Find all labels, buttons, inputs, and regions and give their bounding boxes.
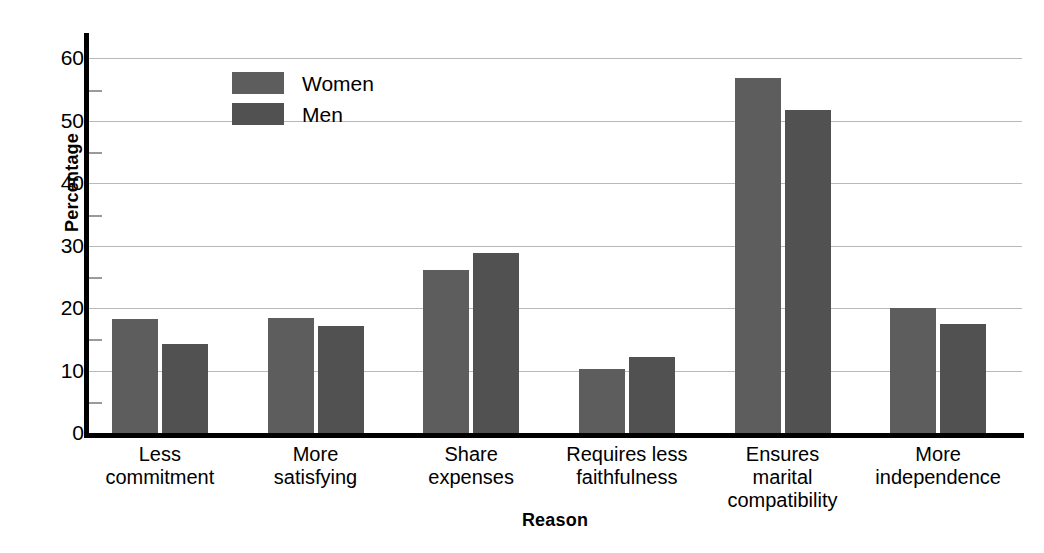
- legend-label-women: Women: [302, 73, 374, 94]
- y-tick-label-30: 30: [14, 235, 84, 256]
- bar-men-2: [473, 253, 519, 433]
- x-category-line: Ensures: [705, 443, 861, 466]
- x-category-label-4: Ensuresmaritalcompatibility: [705, 443, 861, 511]
- bar-men-4: [785, 110, 831, 433]
- x-axis-title: Reason: [88, 510, 1022, 531]
- x-category-line: More: [860, 443, 1016, 466]
- bar-men-3: [629, 357, 675, 433]
- legend-item-men: Men: [232, 100, 374, 128]
- bar-women-3: [579, 369, 625, 433]
- y-tick-label-60: 60: [14, 47, 84, 68]
- legend-label-men: Men: [302, 104, 343, 125]
- x-axis-spine: [84, 433, 1024, 438]
- bar-women-5: [890, 308, 936, 433]
- y-tick-label-40: 40: [14, 172, 84, 193]
- x-category-line: commitment: [82, 466, 238, 489]
- bar-women-1: [268, 318, 314, 433]
- legend-item-women: Women: [232, 69, 374, 97]
- x-category-line: marital: [705, 466, 861, 489]
- bar-women-2: [423, 270, 469, 433]
- legend-swatch-women: [232, 72, 284, 94]
- x-category-label-1: Moresatisfying: [238, 443, 394, 489]
- x-category-label-0: Lesscommitment: [82, 443, 238, 489]
- bar-men-5: [940, 324, 986, 433]
- bar-women-4: [735, 78, 781, 433]
- bar-women-0: [112, 319, 158, 433]
- x-category-line: Requires less: [549, 443, 705, 466]
- chart-legend: WomenMen: [232, 69, 374, 131]
- x-category-line: faithfulness: [549, 466, 705, 489]
- bar-chart: Percentage 0102030405060 WomenMen Lessco…: [0, 0, 1044, 553]
- x-category-line: Share: [393, 443, 549, 466]
- legend-swatch-men: [232, 103, 284, 125]
- x-category-line: satisfying: [238, 466, 394, 489]
- x-category-line: expenses: [393, 466, 549, 489]
- y-tick-label-50: 50: [14, 110, 84, 131]
- x-category-label-2: Shareexpenses: [393, 443, 549, 489]
- x-category-line: Less: [82, 443, 238, 466]
- x-category-label-5: Moreindependence: [860, 443, 1016, 489]
- bar-men-1: [318, 326, 364, 433]
- bar-men-0: [162, 344, 208, 433]
- y-tick-label-20: 20: [14, 297, 84, 318]
- y-axis-tick-labels: 0102030405060: [0, 0, 84, 553]
- x-category-line: More: [238, 443, 394, 466]
- bars-layer: [88, 46, 1022, 433]
- x-category-line: independence: [860, 466, 1016, 489]
- x-category-line: compatibility: [705, 489, 861, 512]
- x-category-label-3: Requires lessfaithfulness: [549, 443, 705, 489]
- y-tick-label-10: 10: [14, 360, 84, 381]
- y-tick-label-0: 0: [14, 422, 84, 443]
